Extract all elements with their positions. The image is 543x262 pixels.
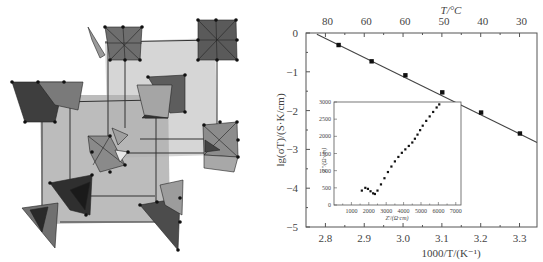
top-axis-title: T/°C <box>441 4 463 16</box>
inset-data-point <box>432 111 434 113</box>
inset-x-tick-label: 3000 <box>380 208 392 214</box>
y-tick-label: −1 <box>286 66 298 78</box>
inset-data-point <box>416 134 418 136</box>
top-tick-label: 60 <box>400 15 412 27</box>
inset-x-axis-title: Z'/(Ω·cm) <box>385 215 408 222</box>
data-point <box>369 59 373 63</box>
x-tick-label: 2.8 <box>319 232 333 244</box>
inset-frame <box>334 102 461 205</box>
conductivity-chart: 2.8802.9603.0603.1503.2403.3300−1−2−3−4−… <box>270 0 543 262</box>
inset-x-tick-label: 7000 <box>450 208 462 214</box>
inset-data-point <box>380 183 382 185</box>
y-tick-label: −3 <box>286 143 298 155</box>
inset-y-tick-label: 2000 <box>319 133 331 139</box>
inset-data-point <box>425 120 427 122</box>
inset-data-point <box>408 145 410 147</box>
inset-data-point <box>414 138 416 140</box>
data-point <box>518 131 522 135</box>
chart-plot-area: 2.8802.9603.0603.1503.2403.3300−1−2−3−4−… <box>270 0 543 262</box>
inset-data-point <box>376 189 378 191</box>
inset-data-point <box>422 125 424 127</box>
x-tick-label: 3.1 <box>435 232 449 244</box>
data-point <box>479 110 483 114</box>
x-axis-title: 1000/T/(K⁻¹) <box>421 247 481 260</box>
top-tick-label: 80 <box>322 15 334 27</box>
y-tick-label: −2 <box>286 105 298 117</box>
inset-data-point <box>397 156 399 158</box>
inset-data-point <box>361 189 363 191</box>
y-tick-label: −5 <box>286 221 298 233</box>
inset-impedance-plot: 1000200030004000500060007000050010001500… <box>319 99 462 214</box>
x-tick-label: 2.9 <box>357 232 371 244</box>
inset-data-point <box>438 103 440 105</box>
x-tick-label: 3.0 <box>396 232 410 244</box>
inset-data-point <box>364 187 366 189</box>
crystal-structure-illustration <box>0 0 270 262</box>
inset-data-point <box>419 129 421 131</box>
top-tick-label: 50 <box>438 15 450 27</box>
inset-data-point <box>383 177 385 179</box>
data-point <box>336 43 340 47</box>
inset-y-axis-title: Z''/(Ω·cm) <box>321 148 328 172</box>
inset-y-tick-label: 3000 <box>319 99 331 105</box>
data-point <box>440 90 444 94</box>
inset-data-point <box>374 193 376 195</box>
top-tick-label: 30 <box>516 15 528 27</box>
inset-y-tick-label: 2500 <box>319 116 331 122</box>
data-point <box>403 73 407 77</box>
inset-data-point <box>401 152 403 154</box>
top-tick-label: 60 <box>361 15 373 27</box>
y-tick-label: 0 <box>293 27 299 39</box>
inset-x-tick-label: 4000 <box>398 208 410 214</box>
inset-data-point <box>411 141 413 143</box>
inset-data-point <box>387 171 389 173</box>
inset-data-point <box>429 115 431 117</box>
inset-data-point <box>367 188 369 190</box>
inset-y-tick-label: 0 <box>328 202 331 208</box>
inset-data-point <box>404 148 406 150</box>
inset-data-point <box>390 165 392 167</box>
x-tick-label: 3.3 <box>513 232 527 244</box>
crystal-structure-image <box>0 0 270 262</box>
inset-data-point <box>394 160 396 162</box>
inset-x-tick-label: 5000 <box>415 208 427 214</box>
y-tick-label: −4 <box>286 182 298 194</box>
y-axis-title: lg(σT)/(S·K/cm) <box>274 93 287 166</box>
inset-x-tick-label: 6000 <box>432 208 444 214</box>
top-tick-label: 40 <box>477 15 489 27</box>
inset-data-point <box>369 190 371 192</box>
inset-x-tick-label: 1000 <box>345 208 357 214</box>
x-tick-label: 3.2 <box>474 232 488 244</box>
inset-y-tick-label: 500 <box>322 185 331 191</box>
inset-data-point <box>436 106 438 108</box>
inset-x-tick-label: 2000 <box>363 208 375 214</box>
